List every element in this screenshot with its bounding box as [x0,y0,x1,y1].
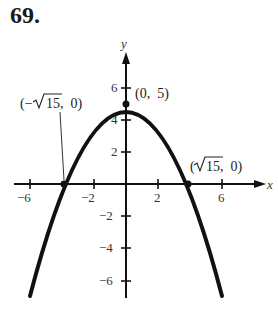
x-axis-arrow-icon [254,180,266,188]
svg-text:15, 0): 15, 0) [46,96,83,112]
x-axis-label: x [266,177,273,192]
svg-text:(−: (− [20,96,33,112]
svg-text:15, 0): 15, 0) [206,159,243,175]
x-axis: x −6 −2 2 6 [14,177,273,205]
y-tick-label: −4 [99,240,113,255]
x-tick-label: 6 [218,190,225,205]
parabola-graph: x −6 −2 2 6 y 6 4 2 −2 −4 −6 (0, 5) (− [0,0,278,321]
y-tick-label: −6 [99,273,113,288]
y-axis: y 6 4 2 −2 −4 −6 [99,36,131,298]
x-tick-label: 2 [154,190,161,205]
x-tick-label: −2 [81,190,95,205]
right-root-point [185,181,192,188]
x-tick-label: −6 [17,190,31,205]
y-tick-label: 2 [111,144,118,159]
y-axis-arrow-icon [122,52,130,64]
y-tick-label: −2 [99,208,113,223]
vertex-point [123,101,130,108]
svg-text:(: ( [190,159,195,175]
y-tick-label: 6 [111,80,118,95]
y-axis-label: y [119,36,127,51]
vertex-label: (0, 5) [135,86,169,102]
left-root-point [61,181,68,188]
right-root-label: ( 15, 0) [190,157,243,175]
leader-line [60,112,64,180]
